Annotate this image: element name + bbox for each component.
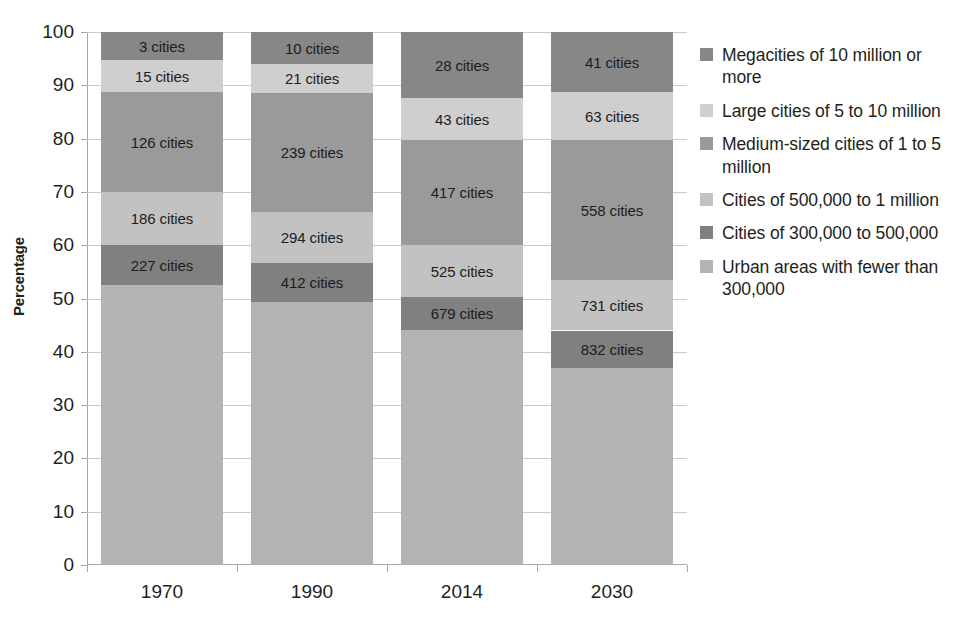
x-tick-mark — [237, 565, 238, 572]
bar-segment[interactable]: 412 cities — [251, 263, 373, 302]
segment-value-label: 412 cities — [281, 275, 343, 290]
y-tick-label: 50 — [14, 288, 74, 310]
bar-segment[interactable]: 3 cities — [101, 32, 223, 60]
segment-value-label: 239 cities — [281, 145, 343, 160]
bar-segment[interactable] — [251, 302, 373, 565]
x-tick-mark — [387, 565, 388, 572]
y-tick-mark — [81, 32, 87, 33]
bar-segment[interactable]: 525 cities — [401, 245, 523, 297]
segment-value-label: 28 cities — [435, 58, 489, 73]
y-tick-label: 90 — [14, 74, 74, 96]
bar-segment[interactable] — [551, 368, 673, 565]
bar-segment[interactable]: 227 cities — [101, 245, 223, 285]
legend-item[interactable]: Large cities of 5 to 10 million — [700, 100, 962, 122]
y-tick-label: 30 — [14, 394, 74, 416]
bar-segment[interactable]: 679 cities — [401, 297, 523, 331]
legend-swatch-icon — [700, 260, 713, 273]
segment-value-label: 126 cities — [131, 135, 193, 150]
segment-value-label: 417 cities — [431, 185, 493, 200]
y-tick-mark — [81, 352, 87, 353]
legend-item[interactable]: Cities of 300,000 to 500,000 — [700, 222, 962, 244]
legend-label: Medium-sized cities of 1 to 5 million — [722, 133, 962, 178]
segment-value-label: 731 cities — [581, 298, 643, 313]
legend-item[interactable]: Medium-sized cities of 1 to 5 million — [700, 133, 962, 178]
bar-1990[interactable]: 412 cities294 cities239 cities21 cities1… — [251, 32, 373, 565]
bar-segment[interactable]: 832 cities — [551, 331, 673, 369]
y-tick-label: 60 — [14, 234, 74, 256]
x-tick-label: 1990 — [291, 581, 333, 603]
chart-legend: Megacities of 10 million or moreLarge ci… — [700, 44, 962, 312]
bar-segment[interactable]: 41 cities — [551, 32, 673, 92]
bar-segment[interactable]: 731 cities — [551, 280, 673, 330]
legend-label: Megacities of 10 million or more — [722, 44, 962, 89]
bar-segment[interactable]: 21 cities — [251, 64, 373, 93]
segment-value-label: 186 cities — [131, 211, 193, 226]
y-tick-mark — [81, 458, 87, 459]
bar-segment[interactable] — [101, 285, 223, 565]
y-tick-label: 10 — [14, 501, 74, 523]
stacked-bar-chart: Percentage 0102030405060708090100 227 ci… — [0, 0, 969, 623]
bar-segment[interactable]: 558 cities — [551, 140, 673, 280]
x-tick-label: 1970 — [141, 581, 183, 603]
segment-value-label: 679 cities — [431, 306, 493, 321]
y-tick-label: 40 — [14, 341, 74, 363]
x-tick-mark — [537, 565, 538, 572]
legend-label: Cities of 500,000 to 1 million — [722, 189, 939, 211]
bar-segment[interactable]: 239 cities — [251, 93, 373, 212]
x-tick-mark — [87, 565, 88, 572]
legend-item[interactable]: Megacities of 10 million or more — [700, 44, 962, 89]
y-tick-mark — [81, 85, 87, 86]
y-tick-label: 80 — [14, 128, 74, 150]
legend-label: Large cities of 5 to 10 million — [722, 100, 941, 122]
legend-item[interactable]: Cities of 500,000 to 1 million — [700, 189, 962, 211]
bar-segment[interactable]: 10 cities — [251, 32, 373, 64]
legend-label: Urban areas with fewer than 300,000 — [722, 256, 962, 301]
bar-segment[interactable]: 63 cities — [551, 92, 673, 140]
bar-segment[interactable]: 43 cities — [401, 98, 523, 140]
y-tick-mark — [81, 512, 87, 513]
legend-item[interactable]: Urban areas with fewer than 300,000 — [700, 256, 962, 301]
bar-segment[interactable]: 186 cities — [101, 192, 223, 245]
legend-swatch-icon — [700, 104, 713, 117]
bar-segment[interactable]: 294 cities — [251, 212, 373, 263]
segment-value-label: 63 cities — [585, 109, 639, 124]
segment-value-label: 10 cities — [285, 41, 339, 56]
segment-value-label: 15 cities — [135, 69, 189, 84]
bar-segment[interactable]: 126 cities — [101, 92, 223, 192]
segment-value-label: 294 cities — [281, 230, 343, 245]
bar-segment[interactable] — [401, 330, 523, 565]
bar-2014[interactable]: 679 cities525 cities417 cities43 cities2… — [401, 32, 523, 565]
bar-segment[interactable]: 417 cities — [401, 140, 523, 245]
x-tick-mark — [687, 565, 688, 572]
segment-value-label: 21 cities — [285, 71, 339, 86]
legend-swatch-icon — [700, 48, 713, 61]
bar-1970[interactable]: 227 cities186 cities126 cities15 cities3… — [101, 32, 223, 565]
y-tick-mark — [81, 405, 87, 406]
x-tick-label: 2014 — [441, 581, 483, 603]
y-tick-label: 100 — [14, 21, 74, 43]
segment-value-label: 41 cities — [585, 55, 639, 70]
plot-area: 0102030405060708090100 227 cities186 cit… — [87, 32, 687, 565]
segment-value-label: 3 cities — [139, 39, 185, 54]
legend-swatch-icon — [700, 226, 713, 239]
legend-swatch-icon — [700, 137, 713, 150]
segment-value-label: 227 cities — [131, 258, 193, 273]
segment-value-label: 43 cities — [435, 112, 489, 127]
y-tick-label: 20 — [14, 447, 74, 469]
segment-value-label: 832 cities — [581, 342, 643, 357]
y-tick-mark — [81, 299, 87, 300]
bar-segment[interactable]: 28 cities — [401, 32, 523, 98]
y-tick-label: 0 — [14, 554, 74, 576]
y-tick-mark — [81, 245, 87, 246]
y-tick-mark — [81, 139, 87, 140]
segment-value-label: 525 cities — [431, 264, 493, 279]
y-tick-mark — [81, 192, 87, 193]
segment-value-label: 558 cities — [581, 203, 643, 218]
bar-segment[interactable]: 15 cities — [101, 60, 223, 92]
y-tick-label: 70 — [14, 181, 74, 203]
x-tick-label: 2030 — [591, 581, 633, 603]
bar-2030[interactable]: 832 cities731 cities558 cities63 cities4… — [551, 32, 673, 565]
legend-swatch-icon — [700, 193, 713, 206]
legend-label: Cities of 300,000 to 500,000 — [722, 222, 938, 244]
